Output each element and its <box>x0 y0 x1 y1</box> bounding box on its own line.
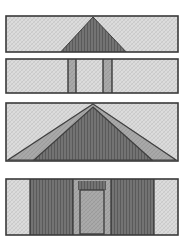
pier-left <box>68 59 76 93</box>
door-panel <box>80 190 104 234</box>
bay-center <box>76 59 103 93</box>
wall-right-dark <box>111 179 154 235</box>
panel-layered-gable-roof <box>6 103 178 161</box>
door-lintel <box>78 181 106 190</box>
panel-gable-roof-section <box>6 16 178 56</box>
pier-right <box>103 59 112 93</box>
panel-wall-section-with-piers <box>6 59 178 93</box>
panel-facade-with-doorway <box>6 179 178 235</box>
wall-left-dark <box>30 179 73 235</box>
figure-canvas <box>0 0 187 245</box>
architectural-section-figure <box>0 0 187 245</box>
